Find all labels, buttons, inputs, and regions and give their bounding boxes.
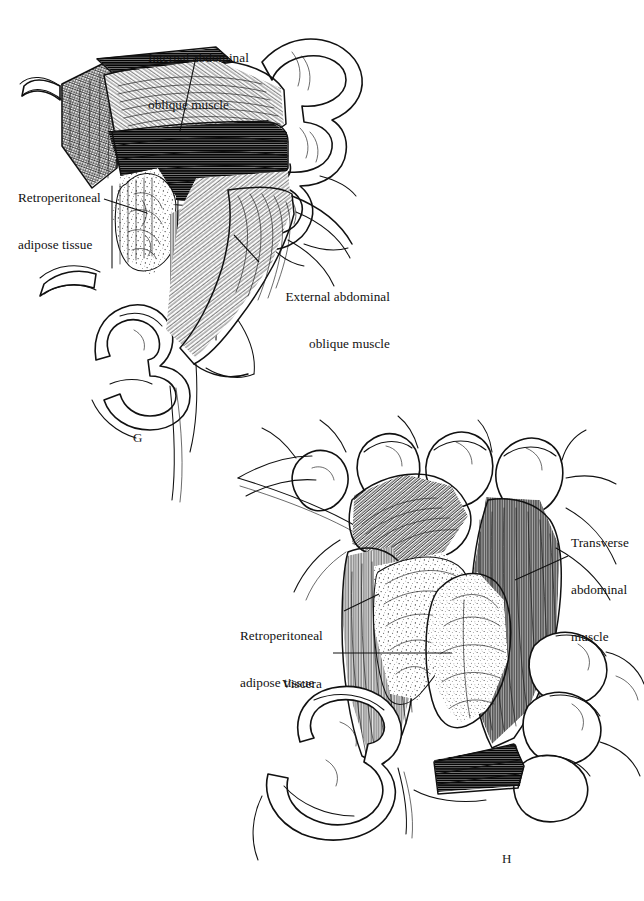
label-transverse-abdominal-muscle: Transverse abdominal muscle: [571, 504, 629, 676]
label-line: abdominal: [571, 582, 629, 598]
label-line: Internal abdominal: [148, 50, 249, 66]
illustration-canvas: [0, 0, 644, 901]
label-external-abdominal-oblique: External abdominal oblique muscle: [140, 258, 390, 383]
label-line: muscle: [571, 629, 629, 645]
label-viscera: Viscera: [282, 645, 322, 723]
label-internal-abdominal-oblique: Internal abdominal oblique muscle: [148, 19, 249, 144]
label-line: External abdominal: [140, 289, 390, 305]
label-line: adipose tissue: [18, 237, 101, 253]
label-line: Viscera: [282, 676, 322, 692]
label-line: Retroperitoneal: [18, 190, 101, 206]
label-line: Transverse: [571, 535, 629, 551]
label-line: Retroperitoneal: [240, 628, 323, 644]
label-retroperitoneal-adipose-tissue-g: Retroperitoneal adipose tissue: [18, 159, 101, 284]
panel-letter-h: H: [502, 851, 512, 867]
label-line: oblique muscle: [140, 336, 390, 352]
panel-letter-g: G: [133, 430, 143, 446]
label-line: oblique muscle: [148, 97, 249, 113]
figure-plate: Internal abdominal oblique muscle Retrop…: [0, 0, 644, 901]
